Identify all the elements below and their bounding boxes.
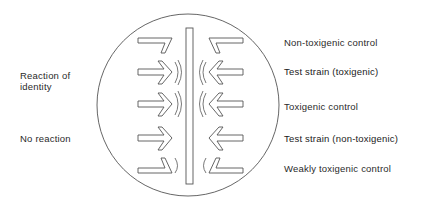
petri-dish-outline <box>97 14 279 196</box>
antitoxin-strip <box>186 28 193 184</box>
right-streak-5 <box>209 158 243 173</box>
right-streak-3 <box>209 93 243 116</box>
right-label-weakly-toxigenic-control: Weakly toxigenic control <box>284 163 391 174</box>
left-label-reaction-of-identity-1: Reaction of <box>20 70 70 81</box>
left-streak-4 <box>138 127 172 150</box>
left-streak-1 <box>138 38 172 53</box>
precipitin-lines <box>175 60 206 173</box>
right-label-test-strain-toxigenic: Test strain (toxigenic) <box>284 66 378 77</box>
left-streak-5 <box>138 158 172 173</box>
right-streak-2 <box>209 61 243 84</box>
left-streak-3 <box>138 93 172 116</box>
right-label-test-strain-non-toxigenic: Test strain (non-toxigenic) <box>284 133 398 144</box>
left-label-no-reaction: No reaction <box>20 133 71 144</box>
left-streak-2 <box>138 61 172 84</box>
right-label-non-toxigenic-control: Non-toxigenic control <box>284 37 377 48</box>
elek-plate-diagram <box>0 0 428 205</box>
right-streak-4 <box>209 127 243 150</box>
left-label-reaction-of-identity-2: identity <box>20 81 52 92</box>
right-streak-1 <box>209 38 243 53</box>
right-label-toxigenic-control: Toxigenic control <box>284 101 358 112</box>
